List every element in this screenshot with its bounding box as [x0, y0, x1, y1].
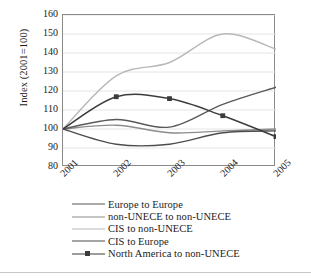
y-axis-tick: 140: [28, 47, 58, 57]
y-axis-tick: 120: [28, 85, 58, 95]
chart-legend: Europe to Europenon-UNECE to non-UNECECI…: [72, 198, 307, 260]
footer-divider: [0, 272, 311, 273]
legend-item[interactable]: non-UNECE to non-UNECE: [72, 210, 307, 222]
y-axis-tick: 80: [28, 161, 58, 171]
legend-line-swatch-icon: [72, 198, 105, 210]
data-point-marker: [220, 113, 225, 118]
legend-line-swatch-icon: [72, 223, 105, 235]
data-point-marker: [114, 94, 119, 99]
legend-item[interactable]: Europe to Europe: [72, 198, 307, 210]
legend-item-label: CIS to non-UNECE: [105, 223, 193, 234]
line-chart: Index (2001=100) 16015014013012011010090…: [0, 0, 311, 280]
plot-area: [62, 14, 275, 166]
legend-item-label: CIS to Europe: [105, 236, 169, 247]
y-axis-tick: 160: [28, 9, 58, 19]
y-axis-tick: 110: [28, 104, 58, 114]
plot-lines: [63, 15, 276, 167]
data-point-marker: [274, 134, 276, 139]
y-axis-tick-labels: 1601501401301201101009080: [24, 0, 58, 280]
legend-item[interactable]: North America to non-UNECE: [72, 248, 307, 260]
y-axis-tick: 90: [28, 142, 58, 152]
legend-line-swatch-icon: [72, 248, 105, 260]
y-axis-tick: 100: [28, 123, 58, 133]
legend-item[interactable]: CIS to non-UNECE: [72, 223, 307, 235]
legend-item-label: non-UNECE to non-UNECE: [105, 211, 231, 222]
series-line: [63, 129, 276, 146]
legend-item-label: Europe to Europe: [105, 199, 183, 210]
legend-item[interactable]: CIS to Europe: [72, 235, 307, 247]
y-axis-tick: 130: [28, 66, 58, 76]
legend-line-swatch-icon: [72, 235, 105, 247]
legend-marker-icon: [85, 251, 90, 256]
data-point-marker: [167, 96, 172, 101]
legend-line-swatch-icon: [72, 211, 105, 223]
series-line: [63, 34, 276, 129]
y-axis-tick: 150: [28, 28, 58, 38]
legend-item-label: North America to non-UNECE: [105, 248, 240, 259]
